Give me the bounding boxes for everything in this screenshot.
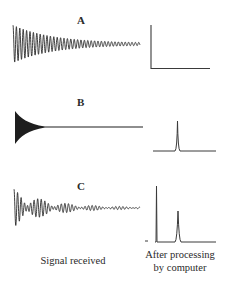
caption-after-processing-line1: After processing xyxy=(138,248,222,261)
signal-b xyxy=(15,111,143,144)
spectrum-c xyxy=(145,186,216,242)
panel-label-b: B xyxy=(77,96,85,108)
panel-label-a: A xyxy=(77,14,85,26)
caption-after-processing: After processing by computer xyxy=(138,248,222,274)
caption-signal-received: Signal received xyxy=(28,254,118,267)
panel-label-c: C xyxy=(77,180,85,192)
fid-fourier-diagram xyxy=(0,0,238,290)
signal-c xyxy=(14,189,140,225)
caption-after-processing-line2: by computer xyxy=(138,261,222,274)
signal-a xyxy=(13,25,140,62)
spectrum-a xyxy=(151,25,210,69)
spectrum-b xyxy=(153,121,216,151)
